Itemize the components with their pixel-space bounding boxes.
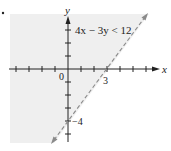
x-axis-arrow-icon <box>152 67 160 72</box>
x-axis-label: x <box>161 63 167 75</box>
inequality-label: 4x − 3y < 12 <box>75 24 131 36</box>
inequality-graph: y x 0 3 −4 4x − 3y < 12 <box>0 0 171 151</box>
bullet-marker <box>2 12 4 14</box>
y-axis-label: y <box>64 4 70 16</box>
y-tick-label-neg4: −4 <box>72 116 83 127</box>
x-tick-label-3: 3 <box>103 75 108 86</box>
origin-label: 0 <box>59 71 64 82</box>
